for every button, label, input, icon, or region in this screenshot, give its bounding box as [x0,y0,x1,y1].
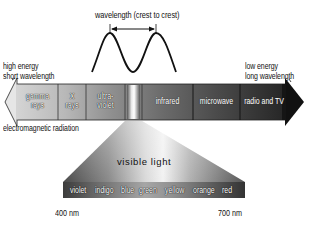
left-arrowhead [5,78,17,126]
segment-x-rays: X rays [61,92,84,110]
color-red: red [222,186,232,195]
right-arrowhead [285,78,304,126]
segment-gamma-rays: gamma rays [21,92,55,110]
color-yellow: yellow [165,186,184,195]
color-orange: orange [193,186,215,195]
segment-microwave-label: microwave [197,97,236,106]
wave-diagram [0,0,323,229]
segment-radio-tv: radio and TV [244,97,282,106]
visible-light-title: visible light [117,156,171,167]
wavelength-label: wavelength (crest to crest) [95,11,179,20]
long-wavelength-label: long wavelength [245,72,294,81]
segment-infrared-label: infrared [147,97,189,106]
segment-ultraviolet: ultra- violet [90,92,122,110]
segment-gamma-line2: rays [21,101,55,110]
wavelength-min-label: 400 nm [55,208,79,218]
color-blue: blue [121,186,134,195]
color-violet: violet [70,186,86,195]
segment-xray-line2: rays [61,101,84,110]
wave-curve [92,33,176,72]
segment-uv-line2: violet [90,101,122,110]
high-energy-label: high energy [3,62,39,71]
color-indigo: indigo [95,186,114,195]
low-energy-label: low energy [245,62,278,71]
em-radiation-label: electromagnetic radiation [3,124,79,133]
color-green: green [139,186,157,195]
short-wavelength-label: short wavelength [3,72,54,81]
wavelength-max-label: 700 nm [218,208,242,218]
segment-microwave: microwave [197,97,236,106]
segment-radio-label: radio and TV [244,97,282,106]
segment-infrared: infrared [147,97,189,106]
visible-strip [127,85,140,119]
